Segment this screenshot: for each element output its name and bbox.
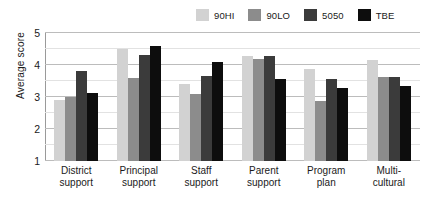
bar-5050	[326, 79, 337, 161]
legend-entry-tbe: TBE	[358, 9, 395, 21]
bar-tbe	[87, 93, 98, 161]
legend-label: 5050	[322, 10, 344, 21]
chart-legend: 90HI90LO5050TBE	[196, 7, 394, 23]
legend-entry-90hi: 90HI	[196, 9, 234, 21]
bar-90lo	[315, 101, 326, 161]
bar-group	[45, 33, 108, 161]
bar-tbe	[150, 46, 161, 161]
bar-tbe	[337, 88, 348, 161]
bar-group	[295, 33, 358, 161]
x-axis-label-line: support	[170, 177, 233, 189]
bar-tbe	[400, 86, 411, 161]
bar-90lo	[65, 97, 76, 161]
plot-area: 12345	[45, 33, 420, 161]
y-axis-tick-label: 5	[20, 27, 40, 39]
legend-entry-90lo: 90LO	[248, 9, 290, 21]
x-axis-label: Multi-cultural	[358, 165, 421, 188]
x-axis-label: Programplan	[295, 165, 358, 188]
legend-swatch-icon	[304, 9, 317, 21]
x-axis-label-line: Principal	[108, 165, 171, 177]
bar-tbe	[275, 79, 286, 161]
bar-group	[108, 33, 171, 161]
bar-series-container	[45, 33, 420, 161]
y-axis-tick-label: 1	[20, 155, 40, 167]
bar-90hi	[304, 69, 315, 161]
x-axis-label-line: Staff	[170, 165, 233, 177]
x-axis-label-line: support	[45, 177, 108, 189]
bar-chart: 90HI90LO5050TBE Average score 12345 Dist…	[0, 0, 425, 214]
bar-group	[170, 33, 233, 161]
x-axis-label-line: Parent	[233, 165, 296, 177]
bar-5050	[264, 56, 275, 161]
legend-swatch-icon	[196, 9, 209, 21]
bar-90lo	[190, 94, 201, 161]
legend-swatch-icon	[248, 9, 261, 21]
x-axis-label-line: District	[45, 165, 108, 177]
bar-90lo	[128, 78, 139, 161]
x-axis-label-line: support	[108, 177, 171, 189]
legend-label: 90LO	[266, 10, 290, 21]
bar-group	[358, 33, 421, 161]
legend-entry-5050: 5050	[304, 9, 344, 21]
legend-label: 90HI	[214, 10, 234, 21]
x-axis-label: Parentsupport	[233, 165, 296, 188]
x-axis-label-line: cultural	[358, 177, 421, 189]
bar-90hi	[54, 100, 65, 161]
bar-5050	[76, 71, 87, 161]
x-axis-label-line: support	[233, 177, 296, 189]
x-axis-category-labels: DistrictsupportPrincipalsupportStaffsupp…	[45, 165, 420, 205]
x-axis-label-line: Multi-	[358, 165, 421, 177]
bar-5050	[139, 55, 150, 161]
legend-label: TBE	[376, 10, 395, 21]
bar-90hi	[117, 49, 128, 161]
x-axis-label: Principalsupport	[108, 165, 171, 188]
bar-group	[233, 33, 296, 161]
x-axis-label-line: plan	[295, 177, 358, 189]
y-axis-tick-label: 2	[20, 123, 40, 135]
bar-5050	[201, 76, 212, 161]
bar-90lo	[378, 77, 389, 161]
bar-90hi	[367, 60, 378, 161]
x-axis-label: Districtsupport	[45, 165, 108, 188]
x-axis-label: Staffsupport	[170, 165, 233, 188]
legend-swatch-icon	[358, 9, 371, 21]
bar-5050	[389, 77, 400, 161]
x-axis-label-line: Program	[295, 165, 358, 177]
bar-tbe	[212, 62, 223, 161]
bar-90hi	[242, 56, 253, 161]
bar-90lo	[253, 59, 264, 161]
bar-90hi	[179, 84, 190, 161]
y-axis-tick-label: 4	[20, 59, 40, 71]
y-axis-tick-label: 3	[20, 91, 40, 103]
